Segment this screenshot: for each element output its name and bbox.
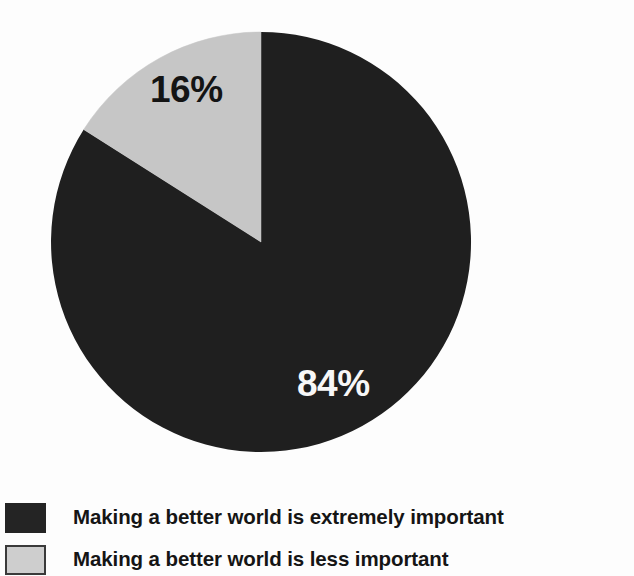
- legend-label-extremely-important: Making a better world is extremely impor…: [73, 503, 504, 531]
- legend-item-extremely-important[interactable]: Making a better world is extremely impor…: [0, 494, 634, 536]
- pie-chart-figure: 16% 84% Making a better world is extreme…: [0, 0, 634, 576]
- chart-legend: Making a better world is extremely impor…: [0, 494, 634, 576]
- legend-light-swatch-icon: [5, 545, 46, 575]
- legend-item-less-important[interactable]: Making a better world is less important: [0, 536, 634, 576]
- pie-slice-label-less-important: 16%: [150, 71, 223, 108]
- pie-chart-plot-area: 16% 84%: [0, 0, 634, 470]
- legend-label-less-important: Making a better world is less important: [73, 545, 448, 573]
- legend-dark-swatch-icon: [5, 503, 46, 533]
- pie-slice-label-extremely-important: 84%: [297, 365, 370, 402]
